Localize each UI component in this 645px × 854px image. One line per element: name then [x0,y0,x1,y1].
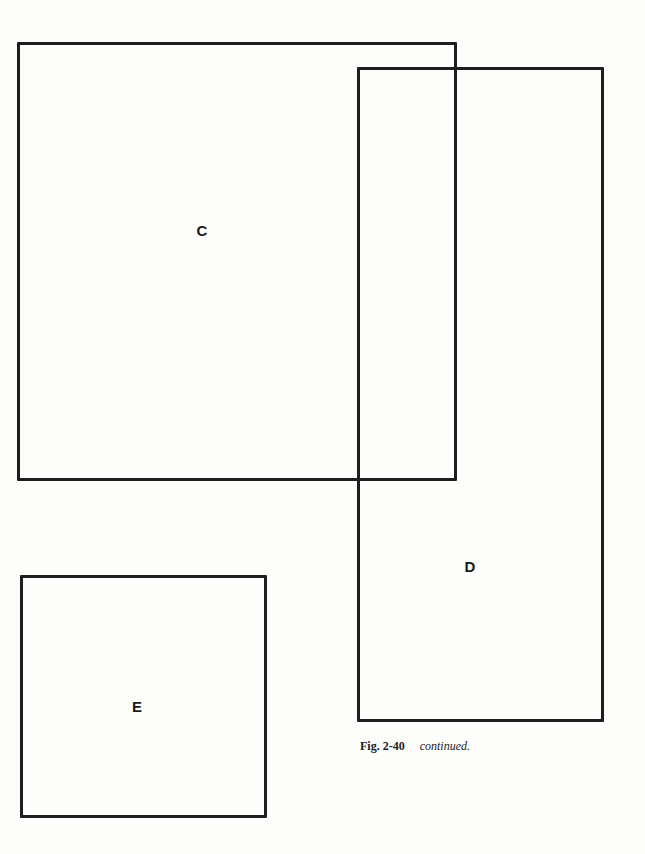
figure-caption: Fig. 2-40 continued. [360,739,470,754]
box-c-label: C [197,222,208,239]
caption-text: continued. [420,739,470,753]
box-d-label: D [465,558,476,575]
box-d [357,67,604,722]
figure-number: Fig. 2-40 [360,739,405,753]
box-e [20,575,267,818]
box-e-label: E [132,698,142,715]
